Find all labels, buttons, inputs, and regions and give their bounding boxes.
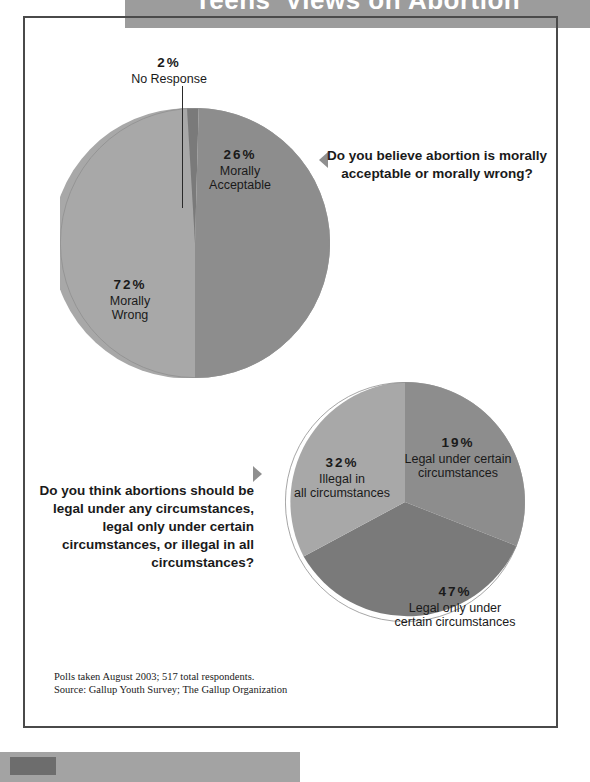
pie2-label-legal-any: 19% Legal under certain circumstances [388, 436, 528, 481]
pie2-label-legal-any-line1: Legal under certain [404, 452, 511, 466]
question-1-text: Do you believe abortion is morally accep… [322, 147, 552, 183]
pie1-label-morally-acceptable-line1: Morally [220, 164, 260, 178]
pie2-label-illegal-all-line2: all circumstances [294, 486, 390, 500]
pie1-label-morally-wrong-line1: Morally [110, 294, 150, 308]
pie1-label-morally-wrong-pct: 72% [70, 278, 190, 293]
footnote-line-1: Polls taken August 2003; 517 total respo… [54, 670, 384, 683]
pie1-slice-morally-wrong-main [60, 108, 195, 378]
source-footnote: Polls taken August 2003; 517 total respo… [54, 670, 384, 696]
pie2-label-legal-only-certain: 47% Legal only under certain circumstanc… [360, 585, 550, 630]
pie2-label-legal-only-pct: 47% [360, 585, 550, 600]
pie2-label-legal-only-line2: certain circumstances [395, 615, 516, 629]
pie1-label-morally-wrong-line2: Wrong [112, 308, 149, 322]
pie2-label-legal-any-line2: circumstances [418, 466, 498, 480]
pie2-label-illegal-all-line1: Illegal in [319, 472, 365, 486]
pie1-label-no-response-pct: 2% [104, 56, 234, 71]
pie2-label-legal-only-line1: Legal only under [409, 601, 501, 615]
pie2-label-illegal-all: 32% Illegal in all circumstances [282, 456, 402, 501]
pie1-label-morally-acceptable: 26% Morally Acceptable [180, 148, 300, 193]
footnote-line-2: Source: Gallup Youth Survey; The Gallup … [54, 683, 384, 696]
pie2-label-legal-any-pct: 19% [388, 436, 528, 451]
pie1-label-no-response: 2% No Response [104, 56, 234, 86]
page-title: Teens' Views on Abortion [195, 0, 520, 16]
bottom-bar-accent [10, 757, 56, 775]
pie1-label-morally-wrong: 72% Morally Wrong [70, 278, 190, 323]
pie1-label-morally-acceptable-line2: Acceptable [209, 178, 271, 192]
question-2-text: Do you think abortions should be legal u… [32, 482, 254, 572]
pie1-label-morally-acceptable-pct: 26% [180, 148, 300, 163]
pie2-label-illegal-all-pct: 32% [282, 456, 402, 471]
pie1-label-no-response-name: No Response [131, 72, 207, 86]
question-2-pointer-icon [253, 466, 262, 482]
